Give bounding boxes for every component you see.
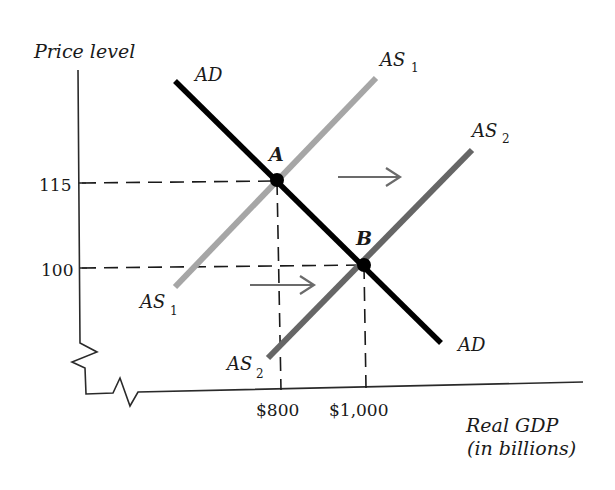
svg-text:AS: AS xyxy=(225,353,252,374)
shift-arrow-lower xyxy=(250,276,314,294)
x-tick-1000: $1,000 xyxy=(329,400,388,420)
y-tick-115: 115 xyxy=(39,175,71,195)
guide-lines xyxy=(82,181,366,390)
point-b-label: B xyxy=(355,227,372,249)
y-tick-100: 100 xyxy=(41,260,73,280)
as1-label-bottom: AS 1 xyxy=(138,291,178,318)
svg-text:2: 2 xyxy=(256,367,264,381)
ad-label-bottom: AD xyxy=(456,334,486,355)
svg-text:AS: AS xyxy=(138,291,165,312)
ad-label-top: AD xyxy=(193,64,223,85)
y-axis xyxy=(72,70,583,406)
point-a-label: A xyxy=(267,143,284,165)
svg-text:1: 1 xyxy=(411,61,419,75)
svg-text:2: 2 xyxy=(502,132,510,146)
dash-1000 xyxy=(364,265,366,388)
as2-curve xyxy=(268,150,472,358)
svg-text:1: 1 xyxy=(170,304,178,318)
point-a-marker xyxy=(270,173,284,187)
x-tick-800: $800 xyxy=(256,400,299,420)
y-axis-label: Price level xyxy=(33,40,135,62)
svg-text:AS: AS xyxy=(378,49,405,70)
x-axis-label-line1: Real GDP xyxy=(465,414,559,436)
as1-label-top: AS 1 xyxy=(378,49,419,75)
shift-arrow-upper xyxy=(338,168,400,186)
svg-text:AS: AS xyxy=(470,120,497,141)
as2-label-top: AS 2 xyxy=(470,120,510,146)
dash-115 xyxy=(82,181,277,183)
x-axis-label-line2: (in billions) xyxy=(467,437,576,459)
ad-as-diagram: Price level 115 100 $800 $1,000 Real GDP… xyxy=(0,0,615,490)
axes xyxy=(72,70,583,406)
dash-100 xyxy=(82,265,364,268)
point-b-marker xyxy=(357,258,371,272)
ad-curve xyxy=(175,81,441,343)
as2-label-bottom: AS 2 xyxy=(225,353,264,381)
